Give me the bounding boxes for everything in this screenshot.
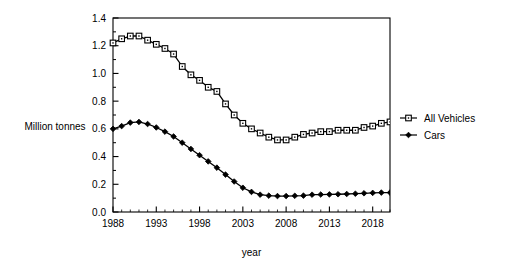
y-axis-tick-label: 0.8 [92,96,106,107]
data-point-marker-center [147,39,148,40]
legend-item-label: All Vehicles [424,113,475,124]
data-point-marker-center [268,136,269,137]
x-axis-tick-label: 2003 [232,218,255,229]
data-point-marker-center [346,130,347,131]
data-point-marker-center [182,66,183,67]
data-point-marker-center [372,125,373,126]
y-axis-title: Million tonnes [24,121,85,132]
data-point-marker-center [303,134,304,135]
data-point-marker-center [138,35,139,36]
data-point-marker-center [355,130,356,131]
chart-svg: 0.00.20.40.60.81.01.21.41988199319982003… [0,0,507,267]
x-axis-tick-label: 1993 [145,218,168,229]
y-axis-tick-label: 1.0 [92,68,106,79]
data-point-marker-center [259,132,260,133]
x-axis-title: year [242,247,262,258]
data-point-marker-center [363,127,364,128]
y-axis-tick-label: 1.4 [92,13,106,24]
data-point-marker-center [251,128,252,129]
y-axis-tick-label: 0.0 [92,207,106,218]
data-point-marker-center [242,123,243,124]
data-point-marker-center [408,117,409,118]
data-point-marker-center [320,131,321,132]
data-point-marker-center [130,35,131,36]
data-point-marker-center [208,87,209,88]
y-axis-tick-label: 0.2 [92,179,106,190]
chart-figure: 0.00.20.40.60.81.01.21.41988199319982003… [0,0,507,267]
data-point-marker-center [173,53,174,54]
data-point-marker-center [381,123,382,124]
y-axis-tick-label: 0.4 [92,151,106,162]
data-point-marker-center [311,132,312,133]
y-axis-tick-label: 0.6 [92,123,106,134]
data-point-marker-center [329,131,330,132]
data-point-marker-center [233,114,234,115]
data-point-marker-center [285,139,286,140]
x-axis-tick-label: 1998 [188,218,211,229]
data-point-marker-center [121,38,122,39]
data-point-marker-center [156,44,157,45]
data-point-marker-center [225,103,226,104]
data-point-marker-center [294,136,295,137]
x-axis-tick-label: 2018 [362,218,385,229]
data-point-marker-center [112,42,113,43]
y-axis-tick-label: 1.2 [92,40,106,51]
data-point-marker-center [337,130,338,131]
legend-item-label: Cars [424,130,445,141]
x-axis-tick-label: 2013 [318,218,341,229]
data-point-marker-center [199,80,200,81]
data-point-marker-center [164,48,165,49]
data-point-marker-center [216,91,217,92]
data-point-marker-center [190,74,191,75]
x-axis-tick-label: 2008 [275,218,298,229]
x-axis-tick-label: 1988 [102,218,125,229]
data-point-marker-center [277,139,278,140]
